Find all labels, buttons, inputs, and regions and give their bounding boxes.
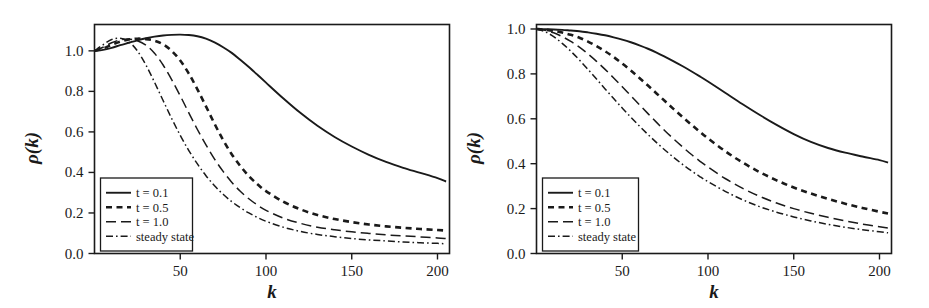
chart-panel-left: 0.00.20.40.60.81.0 50100150200 ρ(k) k t … [0,0,464,308]
y-tick-label: 0.0 [507,246,526,262]
y-tick-labels-left: 0.00.20.40.60.81.0 [65,43,84,262]
figure-container: 0.00.20.40.60.81.0 50100150200 ρ(k) k t … [0,0,929,308]
axis-layer-left: 0.00.20.40.60.81.0 50100150200 ρ(k) k [21,25,450,303]
legend-label: steady state [136,230,194,244]
x-tick-label: 200 [868,263,891,279]
y-tick-label: 1.0 [507,21,526,37]
legend-right: t = 0.1t = 0.5t = 1.0steady state [543,178,639,251]
y-tick-label: 0.4 [507,156,526,172]
y-tick-label: 0.4 [65,164,84,180]
x-tick-label: 50 [173,263,188,279]
y-axis-title-left: ρ(k) [21,132,43,165]
legend-label: t = 0.5 [136,201,168,215]
curve-t-0-1 [95,35,447,182]
legend-label: t = 1.0 [578,215,610,229]
x-tick-labels-left: 50100150200 [173,263,449,279]
x-tick-label: 100 [697,263,720,279]
plot-svg-right: 0.00.20.40.60.81.0 50100150200 ρ(k) k t … [464,0,928,308]
legend-label: t = 0.1 [578,186,610,200]
legend-label: t = 1.0 [136,215,168,229]
y-tick-label: 1.0 [65,43,84,59]
y-tick-marks-right [531,29,537,254]
y-axis-title-right: ρ(k) [464,132,485,165]
legend-label: t = 0.5 [578,201,610,215]
x-axis-title-right: k [709,281,719,302]
plot-svg-left: 0.00.20.40.60.81.0 50100150200 ρ(k) k t … [0,0,464,308]
x-tick-label: 100 [255,263,278,279]
legend-left: t = 0.1t = 0.5t = 1.0steady state [101,178,195,251]
x-tick-label: 150 [340,263,363,279]
x-tick-marks-left [180,254,437,260]
x-tick-marks-right [622,254,879,260]
y-tick-label: 0.6 [507,111,526,127]
x-axis-title-left: k [267,281,277,302]
chart-panel-right: 0.00.20.40.60.81.0 50100150200 ρ(k) k t … [464,0,928,308]
x-tick-label: 150 [782,263,805,279]
y-tick-label: 0.2 [65,205,84,221]
y-tick-labels-right: 0.00.20.40.60.81.0 [507,21,526,262]
y-tick-label: 0.2 [507,201,526,217]
legend-label: t = 0.1 [136,186,168,200]
x-tick-labels-right: 50100150200 [615,263,891,279]
y-tick-label: 0.8 [507,66,526,82]
y-tick-label: 0.0 [65,246,84,262]
x-tick-label: 200 [426,263,449,279]
x-tick-label: 50 [615,263,630,279]
y-tick-marks-left [89,51,95,254]
y-tick-label: 0.8 [65,83,84,99]
legend-label: steady state [578,230,636,244]
y-tick-label: 0.6 [65,124,84,140]
